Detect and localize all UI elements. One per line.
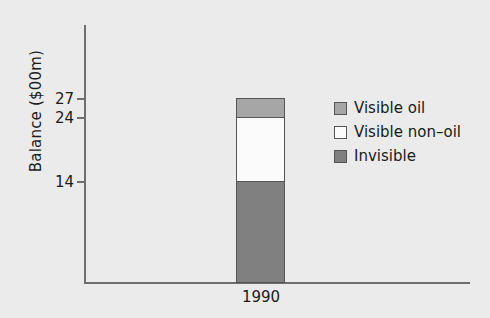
y-axis-title: Balance ($00m) [27,31,45,191]
y-axis-tick-24: 24 [44,110,84,126]
legend-swatch-invisible [334,150,347,163]
legend-label-visible-non-oil: Visible non–oil [354,125,461,140]
y-axis-tick-mark [77,181,84,183]
legend-item-visible-non-oil: Visible non–oil [334,124,461,141]
bar-1990 [236,98,285,283]
y-axis-tick-27: 27 [44,91,84,107]
bar-segment-visible-oil [237,99,284,118]
stacked-bar-chart: Balance ($00m) 27 24 14 1990 Visible oil… [0,0,490,318]
chart-legend: Visible oil Visible non–oil Invisible [334,100,461,165]
y-axis-tick-14: 14 [44,174,84,190]
legend-swatch-visible-oil [334,102,347,115]
y-axis-line [84,25,86,284]
legend-label-visible-oil: Visible oil [354,101,425,116]
legend-swatch-visible-non-oil [334,126,347,139]
y-axis-tick-label: 27 [55,92,74,107]
x-axis-tick-label-1990: 1990 [211,288,311,306]
bar-segment-visible-non-oil [237,118,284,182]
legend-item-invisible: Invisible [334,148,461,165]
legend-item-visible-oil: Visible oil [334,100,461,117]
y-axis-tick-mark [77,98,84,100]
y-axis-tick-label: 24 [55,111,74,126]
legend-label-invisible: Invisible [354,149,416,164]
y-axis-tick-label: 14 [55,175,74,190]
y-axis-tick-mark [77,117,84,119]
bar-segment-invisible [237,182,284,282]
